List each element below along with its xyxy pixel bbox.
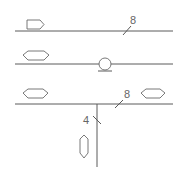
double-arrow-horizontal-icon — [23, 51, 49, 60]
double-arrow-horizontal-icon-left — [23, 89, 48, 98]
double-arrow-horizontal-icon-right — [141, 89, 165, 98]
size-label-1: 8 — [130, 14, 136, 26]
size-label-branch: 4 — [83, 114, 89, 126]
flow-arrow-right-icon — [27, 20, 44, 29]
pump-circle-icon — [99, 58, 111, 70]
size-label-3: 8 — [124, 88, 130, 100]
double-arrow-vertical-icon — [80, 135, 88, 158]
pipe-diagram: 8 8 4 — [0, 0, 191, 174]
